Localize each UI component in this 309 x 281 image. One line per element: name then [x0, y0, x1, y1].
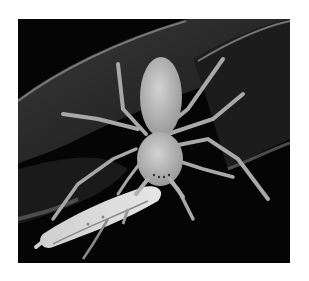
spider-photo: Grayscale close-up photograph of a hunts… — [18, 19, 290, 263]
spider-abdomen — [140, 57, 182, 137]
spider-illustration — [18, 19, 290, 263]
spider-cephalothorax — [137, 132, 183, 186]
